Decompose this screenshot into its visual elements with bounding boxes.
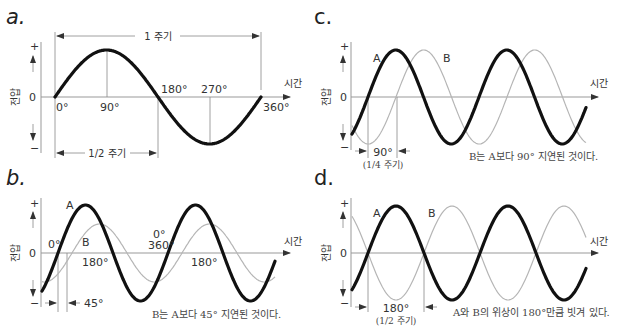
angle-180-first: 180° [82,256,109,269]
panel-d-letter: d. [314,166,334,190]
panel-a: a. + − 0 전압 시간 1 주기 1/2 주기 0° 90° 180° 2… [6,5,302,159]
panel-b: b. + − 0 전압 시간 A B 0° 180° 0° 360° 180° … [6,166,302,320]
y-minus-label: − [30,142,39,155]
y-plus-label: + [30,40,39,53]
half-period-label: 1/2 주기 [88,148,125,159]
phase-diagram: a. + − 0 전압 시간 1 주기 1/2 주기 0° 90° 180° 2… [0,0,620,335]
x-axis-label: 시간 [284,236,302,247]
wave-b-label: B [428,207,436,220]
y-axis-label: 전압 [9,244,21,262]
wave-b-label: B [443,52,451,65]
y-zero-label: 0 [340,91,347,104]
y-axis-label: 전압 [320,88,332,106]
angle-360: 360° [148,239,175,252]
caption: A와 B의 위상이 180°만큼 빗겨 있다. [452,306,610,318]
caption: B는 A보다 90° 지연된 것이다. [469,151,598,162]
y-minus-label: − [340,141,349,154]
phase-shift-sub: (1/4 주기) [363,160,403,170]
y-zero-label: 0 [29,247,36,260]
x-axis-label: 시간 [590,78,608,89]
y-axis-label: 전압 [320,244,332,262]
wave-b-label: B [82,236,90,249]
y-plus-label: + [340,40,349,53]
angle-0: 0° [56,101,69,114]
y-plus-label: + [30,197,39,210]
phase-shift-label: 180° [383,302,410,315]
panel-b-letter: b. [6,166,26,190]
y-minus-label: − [30,297,39,310]
y-zero-label: 0 [340,247,347,260]
angle-90: 90° [100,101,120,114]
angle-180: 180° [161,83,188,96]
angle-180-second: 180° [191,256,218,269]
y-plus-label: + [340,197,349,210]
panel-c-letter: c. [314,5,332,29]
wave-a-label: A [66,199,74,212]
caption: B는 A보다 45° 지연된 것이다. [152,309,281,320]
period-label: 1 주기 [144,31,172,42]
y-axis-label: 전압 [9,88,21,106]
phase-shift-sub: (1/2 주기) [376,316,416,326]
wave-a-label: A [373,52,381,65]
panel-c: c. + − 0 전압 시간 A B 90° (1/4 주기) B는 A보다 9… [314,5,608,170]
phase-shift-label: 45° [84,297,104,310]
angle-360: 360° [263,101,290,114]
y-minus-label: − [340,297,349,310]
panel-d: d. + − 0 전압 시간 A B 180° (1/2 주기) A와 B의 위… [314,166,610,326]
angle-270: 270° [201,83,228,96]
angle-0: 0° [48,238,61,251]
wave-a-label: A [373,207,381,220]
x-axis-label: 시간 [590,236,608,247]
panel-a-letter: a. [6,5,26,29]
y-zero-label: 0 [29,91,36,104]
phase-shift-label: 90° [373,146,393,159]
x-axis-label: 시간 [284,78,302,89]
